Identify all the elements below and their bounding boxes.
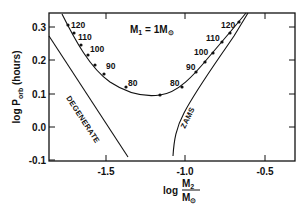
svg-text:M⊙: M⊙ bbox=[182, 192, 196, 204]
x-tick-label: -1.0 bbox=[176, 166, 194, 177]
svg-text:log: log bbox=[163, 185, 178, 196]
y-tick-label: 0.0 bbox=[32, 122, 46, 133]
y-tick-label: 0.2 bbox=[32, 55, 46, 66]
point-label: 110 bbox=[78, 32, 92, 42]
point-label: 80 bbox=[170, 78, 180, 88]
y-axis-title: log Porb (hours) bbox=[11, 51, 24, 124]
point-label: 90 bbox=[186, 62, 196, 72]
y-axis: 0.3 0.2 0.1 0.0 -0.1 bbox=[29, 22, 295, 166]
degenerate-label: DEGENERATE bbox=[64, 94, 101, 145]
svg-text:M2: M2 bbox=[182, 178, 194, 190]
point-label: 100 bbox=[90, 44, 104, 54]
x-axis-title: log M2 M⊙ bbox=[163, 178, 200, 204]
chart: -1.5 -1.0 -0.5 0.3 0.2 0.1 0.0 -0.1 log … bbox=[0, 0, 303, 211]
x-axis: -1.5 -1.0 -0.5 bbox=[97, 13, 274, 177]
y-tick-label: 0.3 bbox=[32, 22, 46, 33]
point-label: 120 bbox=[221, 20, 235, 30]
x-tick-label: -0.5 bbox=[256, 166, 274, 177]
point-label: 90 bbox=[106, 61, 116, 71]
point-label: 120 bbox=[71, 20, 85, 30]
point-label: 80 bbox=[128, 78, 138, 88]
svg-text:log Porb (hours): log Porb (hours) bbox=[11, 51, 24, 124]
point-label: 110 bbox=[206, 33, 220, 43]
x-tick-label: -1.5 bbox=[97, 166, 115, 177]
y-tick-label: -0.1 bbox=[29, 155, 47, 166]
mass-annotation: M1 = 1M⊙ bbox=[130, 24, 174, 36]
y-tick-label: 0.1 bbox=[32, 89, 46, 100]
point-label: 100 bbox=[194, 47, 208, 57]
